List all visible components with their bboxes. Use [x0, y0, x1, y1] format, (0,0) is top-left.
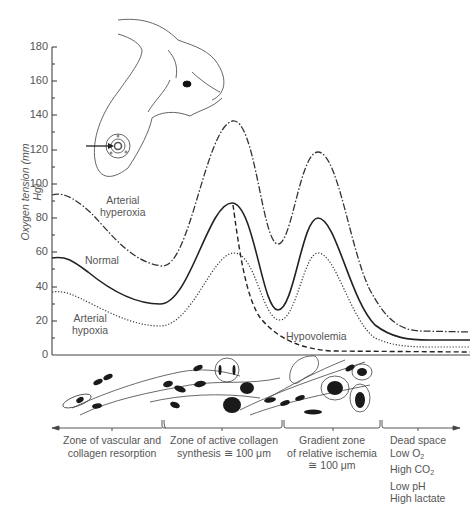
high-co2-sub: 2 [430, 469, 434, 476]
label-arterial-hypoxia-line2: hypoxia [72, 324, 108, 336]
zone-4-line5: High lactate [390, 492, 446, 505]
zone-gradient-relative-ischemia: Gradient zone of relative ischemia ≅ 100… [284, 434, 380, 472]
low-o2-sub: 2 [420, 453, 424, 460]
tissue-cross-section-illustration [61, 356, 372, 415]
zone-4-line3: High CO2 [390, 463, 446, 480]
y-axis [52, 47, 57, 355]
zone-4-line4: Low pH [390, 480, 446, 493]
label-arterial-hypoxia: Arterial hypoxia [72, 312, 108, 336]
curve-normal [52, 203, 470, 340]
label-arterial-hyperoxia-line1: Arterial [100, 194, 146, 206]
zone-1-line2: collagen resorption [56, 447, 168, 460]
high-co2-text: High CO [390, 463, 430, 475]
y-tick-0: 0 [26, 348, 48, 360]
zone-3-line2: of relative ischemia [284, 447, 380, 460]
diagram-canvas [0, 0, 475, 508]
label-hypovolemia: Hypovolemia [286, 330, 347, 342]
zone-vascular-collagen-resorption: Zone of vascular and collagen resorption [56, 434, 168, 459]
zone-2-line2: synthesis ≅ 100 μm [166, 447, 282, 460]
zone-1-line1: Zone of vascular and [56, 434, 168, 447]
zone-4-line2: Low O2 [390, 447, 446, 464]
y-tick-180: 180 [26, 40, 48, 52]
label-normal: Normal [85, 254, 119, 266]
zone-3-line3: ≅ 100 μm [284, 459, 380, 472]
y-axis-label: Oxygen tension (mm Hg) [19, 137, 43, 247]
zone-2-line1: Zone of active collagen [166, 434, 282, 447]
label-arterial-hyperoxia-line2: hyperoxia [100, 206, 146, 218]
low-o2-text: Low O [390, 447, 420, 459]
label-arterial-hypoxia-line1: Arterial [72, 312, 108, 324]
pointer-arrow [86, 143, 114, 149]
y-tick-40: 40 [26, 280, 48, 292]
y-tick-160: 160 [26, 74, 48, 86]
zone-brackets [52, 420, 460, 431]
zone-4-line1: Dead space [390, 434, 446, 447]
y-tick-20: 20 [26, 314, 48, 326]
rabbit-ear-illustration [94, 19, 224, 176]
zone-active-collagen-synthesis: Zone of active collagen synthesis ≅ 100 … [166, 434, 282, 459]
y-tick-140: 140 [26, 108, 48, 120]
zone-3-line1: Gradient zone [284, 434, 380, 447]
curve-arterial-hypoxia [52, 253, 470, 347]
zone-dead-space: Dead space Low O2 High CO2 Low pH High l… [390, 434, 446, 505]
label-arterial-hyperoxia: Arterial hyperoxia [100, 194, 146, 218]
